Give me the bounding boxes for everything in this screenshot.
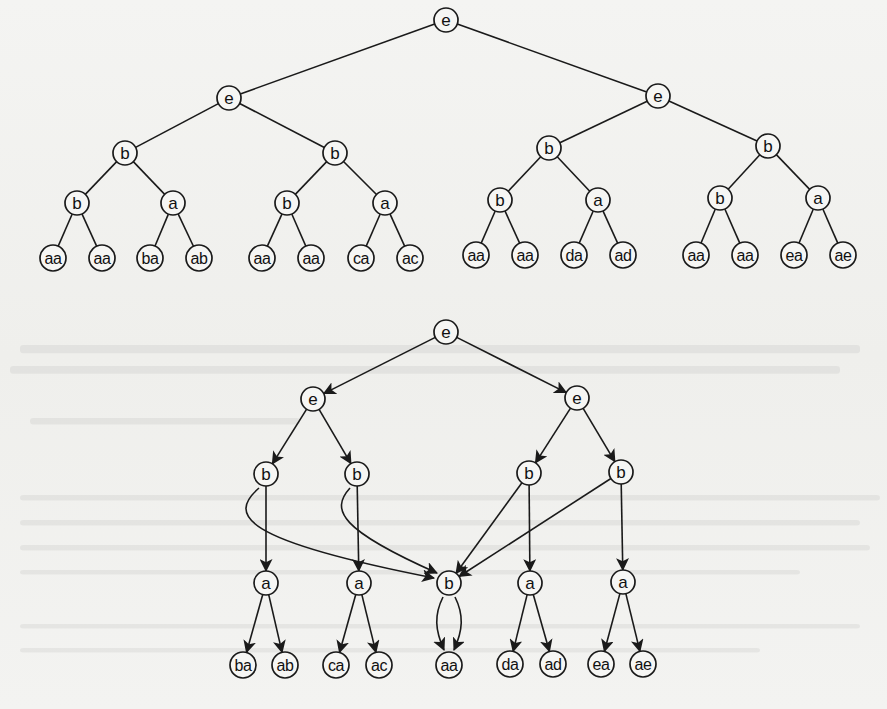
node-label: ad bbox=[545, 656, 562, 673]
dag-edge-b-to-b bbox=[459, 479, 611, 577]
node-label: b bbox=[72, 194, 81, 213]
tree-node-aa: aa bbox=[298, 245, 324, 271]
node-label: da bbox=[502, 656, 519, 673]
scan-bleed-through-texture bbox=[10, 345, 880, 652]
node-label: b bbox=[352, 465, 361, 484]
diagram-canvas: eeebbbbbabababaaaaabaabaaaacaacaaaadaada… bbox=[0, 0, 887, 709]
tree-node-b: b bbox=[756, 134, 780, 158]
tree-node-ab: ab bbox=[186, 245, 212, 271]
tree-edge-e-to-e bbox=[457, 24, 646, 92]
node-label: e bbox=[441, 11, 450, 30]
tree-node-ad: ad bbox=[610, 242, 636, 268]
dag-node-ae: ae bbox=[630, 651, 656, 677]
dag-node-a: a bbox=[347, 571, 371, 595]
dag-node-aa: aa bbox=[436, 652, 462, 678]
tree-node-e: e bbox=[646, 84, 670, 108]
node-label: e bbox=[224, 89, 233, 108]
tree-edge-a-to-ac bbox=[390, 214, 405, 246]
tree-node-b: b bbox=[708, 186, 732, 210]
node-label: b bbox=[261, 465, 270, 484]
tree-edge-b-to-a bbox=[133, 162, 164, 195]
dag-edge-a-to-ea bbox=[604, 594, 620, 652]
tree-node-ac: ac bbox=[397, 245, 423, 271]
tree-to-dag-figure: eeebbbbbabababaaaaabaabaaaacaacaaaadaada… bbox=[0, 0, 887, 709]
dag-edge-e-to-b bbox=[319, 409, 351, 463]
node-label: e bbox=[441, 323, 450, 342]
tree-edge-e-to-b bbox=[669, 101, 757, 141]
tree-node-aa: aa bbox=[683, 242, 709, 268]
node-label: ae bbox=[635, 656, 652, 673]
node-label: b bbox=[763, 137, 772, 156]
tree-node-b: b bbox=[488, 188, 512, 212]
tree-node-aa: aa bbox=[463, 242, 489, 268]
node-label: aa bbox=[688, 247, 705, 264]
node-label: e bbox=[308, 390, 317, 409]
dag-node-b: b bbox=[517, 461, 541, 485]
tree-edge-b-to-a bbox=[776, 155, 809, 190]
dag-edge-b-to-aa bbox=[454, 597, 461, 650]
dag-node-da: da bbox=[497, 651, 523, 677]
node-label: aa bbox=[441, 657, 458, 674]
dag-node-e: e bbox=[434, 320, 458, 344]
node-label: a bbox=[168, 194, 178, 213]
node-label: aa bbox=[517, 247, 534, 264]
tree-edge-a-to-ca bbox=[366, 214, 380, 246]
dag-node-b: b bbox=[437, 571, 461, 595]
node-label: b bbox=[524, 464, 533, 483]
tree-node-a: a bbox=[373, 191, 397, 215]
dag-edge-a-to-ba bbox=[247, 595, 263, 653]
dag-edge-a-to-ca bbox=[340, 595, 356, 653]
dag-node-b: b bbox=[609, 460, 633, 484]
tree-node-b: b bbox=[113, 141, 137, 165]
dag-edge-b-to-aa bbox=[437, 597, 444, 650]
tree-edge-a-to-ad bbox=[603, 211, 618, 243]
dag-node-e: e bbox=[565, 386, 589, 410]
node-label: b bbox=[282, 194, 291, 213]
tree-node-e: e bbox=[217, 86, 241, 110]
node-label: ad bbox=[615, 247, 632, 264]
dag-edge-b-to-a bbox=[529, 485, 530, 571]
tree-edge-b-to-aa bbox=[292, 214, 306, 246]
tree-node-ea: ea bbox=[781, 242, 807, 268]
node-label: ea bbox=[593, 656, 610, 673]
dag-edge-e-to-b bbox=[272, 409, 306, 464]
tree-node-b: b bbox=[275, 191, 299, 215]
top-tree-nodes: eeebbbbbabababaaaaabaabaaaacaacaaaadaada… bbox=[40, 8, 856, 271]
tree-edge-a-to-ba bbox=[155, 214, 168, 246]
node-label: a bbox=[380, 194, 390, 213]
tree-node-ba: ba bbox=[137, 245, 163, 271]
tree-edge-b-to-a bbox=[343, 161, 376, 194]
tree-node-a: a bbox=[586, 188, 610, 212]
tree-edge-e-to-b bbox=[240, 104, 325, 148]
tree-node-aa: aa bbox=[512, 242, 538, 268]
tree-node-aa: aa bbox=[732, 242, 758, 268]
tree-edge-a-to-ea bbox=[799, 209, 813, 243]
dag-node-a: a bbox=[254, 571, 278, 595]
tree-edge-b-to-b bbox=[508, 157, 541, 192]
node-label: ae bbox=[835, 247, 852, 264]
tree-edge-b-to-aa bbox=[505, 211, 520, 243]
dag-edge-a-to-ad bbox=[533, 595, 549, 652]
node-label: ea bbox=[786, 247, 803, 264]
node-label: a bbox=[813, 189, 823, 208]
node-label: ac bbox=[371, 657, 387, 674]
node-label: ba bbox=[235, 657, 252, 674]
tree-node-b: b bbox=[537, 136, 561, 160]
dag-node-ab: ab bbox=[272, 652, 298, 678]
tree-node-a: a bbox=[806, 186, 830, 210]
dag-edge-e-to-b bbox=[583, 408, 615, 461]
tree-node-b: b bbox=[65, 191, 89, 215]
node-label: a bbox=[618, 573, 628, 592]
tree-edge-b-to-b bbox=[295, 162, 326, 195]
dag-node-ad: ad bbox=[540, 651, 566, 677]
node-label: aa bbox=[737, 247, 754, 264]
node-label: ac bbox=[402, 250, 418, 267]
node-label: ab bbox=[191, 250, 208, 267]
node-label: b bbox=[444, 574, 453, 593]
node-label: a bbox=[354, 574, 364, 593]
tree-node-ae: ae bbox=[830, 242, 856, 268]
node-label: b bbox=[495, 191, 504, 210]
tree-node-aa: aa bbox=[249, 245, 275, 271]
tree-edge-a-to-da bbox=[579, 211, 593, 243]
tree-edge-b-to-aa bbox=[58, 214, 72, 246]
